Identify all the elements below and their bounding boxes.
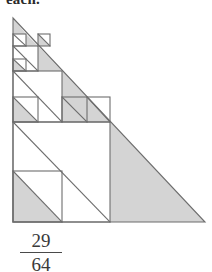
fraction-label: 29 64 [18,231,64,272]
shaded-corner-triangle-level-4 [26,34,38,46]
shaded-corner-triangle-level-3 [38,46,62,71]
outer-triangle-outline [13,18,205,222]
fraction-denominator: 64 [18,255,64,272]
diagram-lines [13,18,205,222]
diagonal-level-4 [13,34,26,46]
figure-root: each. [0,0,212,272]
fraction-numerator: 29 [18,231,64,251]
fraction-bar [20,252,62,253]
triangle-fractal-diagram [0,0,212,232]
